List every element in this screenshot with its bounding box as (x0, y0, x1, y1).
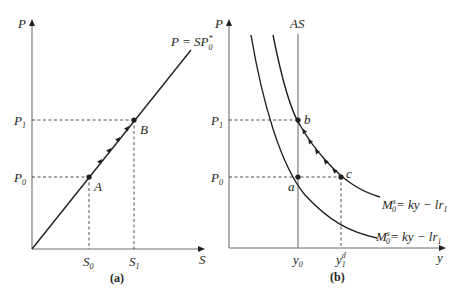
panel-b-tick-p0: P0 (210, 170, 223, 187)
point-b-upper-label: B (140, 122, 148, 137)
panel-a-y-axis-label: P (17, 16, 26, 31)
point-c (338, 174, 343, 179)
panel-b-tick-y0: y0 (291, 252, 303, 269)
aggregate-supply-label: AS (289, 16, 305, 31)
panel-b-y-axis-label: P (214, 16, 223, 31)
money-demand-curve-upper (273, 35, 380, 197)
money-curve-lower-label: Ms0= ky − lr1 (375, 229, 441, 246)
panel-a-curve-label: P = SP*0 (170, 34, 212, 52)
money-demand-curve-lower (251, 35, 377, 238)
panel-b-tick-p1: P1 (210, 113, 223, 130)
point-c-label: c (346, 166, 352, 181)
point-a-lower-label: a (288, 179, 295, 194)
panel-a-tick-p1: P1 (13, 113, 26, 130)
panel-a-caption: (a) (110, 271, 124, 285)
panel-b-caption: (b) (330, 270, 345, 284)
diagram-canvas: P S A B P = SP*0 P1 P0 S0 S1 (a) (0, 0, 460, 293)
money-curve-upper-label: Ms0= ky − lr1 (381, 197, 447, 214)
point-b-lower (295, 117, 300, 122)
panel-b-tick-y1d: yd1 (334, 251, 347, 269)
point-b-lower-label: b (304, 112, 311, 127)
panel-a: P S A B P = SP*0 P1 P0 S0 S1 (a) (13, 16, 212, 285)
panel-a-price-line (32, 50, 191, 249)
point-a-lower (295, 174, 300, 179)
point-a-upper-label: A (93, 179, 102, 194)
panel-b-x-axis-label: y (435, 250, 443, 265)
panel-b: P y AS a b c Ms0= ky − lr1 Ms0= ky − lr1 (210, 16, 447, 284)
panel-a-tick-s1: S1 (129, 254, 140, 271)
panel-a-tick-p0: P0 (13, 170, 26, 187)
point-a-upper (86, 174, 91, 179)
point-b-upper (131, 117, 136, 122)
panel-a-x-axis-label: S (199, 252, 206, 267)
panel-a-tick-s0: S0 (83, 254, 94, 271)
